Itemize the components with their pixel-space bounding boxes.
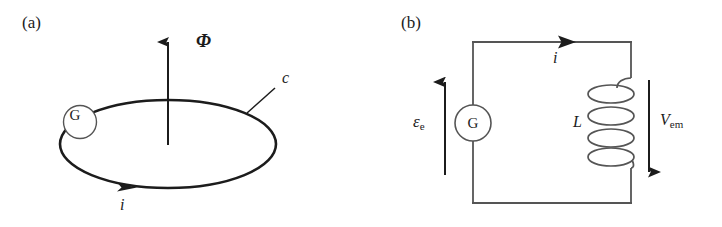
- emf-subscript: e: [420, 120, 425, 132]
- flux-label: Φ: [196, 31, 211, 50]
- contour-label: c: [282, 70, 289, 86]
- current-label-b: i: [553, 50, 557, 66]
- panel-b: (b) i εe L Vem G: [361, 0, 722, 227]
- panel-a: (a) Φ c i G: [0, 0, 361, 227]
- figure-root: (a) Φ c i G: [0, 0, 722, 227]
- emf-symbol: ε: [413, 112, 420, 131]
- inductance-label: L: [573, 114, 582, 130]
- inductor-coil: [588, 78, 634, 168]
- generator-label-b: G: [468, 116, 479, 131]
- voltage-symbol: V: [660, 111, 670, 128]
- panel-a-tag: (a): [22, 14, 41, 31]
- panel-a-drawing: [0, 0, 361, 227]
- generator-label-a: G: [70, 108, 81, 123]
- voltage-subscript: em: [670, 118, 684, 130]
- panel-b-tag: (b): [401, 14, 421, 31]
- contour-leader-line: [247, 88, 275, 113]
- current-label-a: i: [120, 197, 124, 213]
- emf-label: εe: [413, 113, 425, 132]
- voltage-label: Vem: [660, 112, 684, 130]
